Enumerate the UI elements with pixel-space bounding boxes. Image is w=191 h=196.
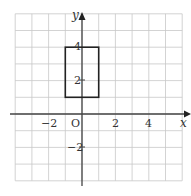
coordinate-plane: x y O −2 2 4 4 2 −2 bbox=[0, 0, 191, 196]
y-axis-arrow-icon bbox=[79, 12, 86, 20]
y-tick-label-4: 4 bbox=[74, 40, 81, 53]
x-axis-label: x bbox=[180, 116, 187, 130]
x-tick-label-2: 2 bbox=[112, 117, 119, 130]
x-tick-label-neg2: −2 bbox=[41, 117, 57, 130]
y-axis-label: y bbox=[71, 8, 79, 22]
x-tick-label-4: 4 bbox=[145, 117, 152, 130]
origin-label: O bbox=[71, 117, 80, 130]
